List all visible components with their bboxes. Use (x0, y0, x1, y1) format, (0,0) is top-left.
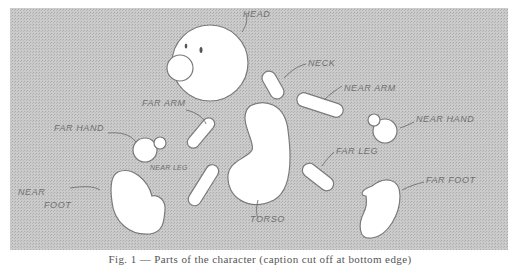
label-torso: Torso (250, 214, 285, 224)
label-near-arm: Near Arm (344, 83, 396, 93)
label-far-leg: Far Leg (336, 146, 378, 156)
eye-right (200, 47, 203, 53)
label-near-foot-line1: Near (18, 187, 45, 197)
label-neck: Neck (308, 58, 335, 68)
nose-shape (167, 55, 193, 81)
far-hand-thumb (154, 137, 166, 149)
near-hand-thumb (368, 114, 380, 126)
far-hand-shape (133, 138, 157, 162)
label-near-foot-line2: Foot (44, 200, 71, 210)
label-near-leg: Near Leg (150, 163, 188, 173)
label-far-foot: Far Foot (426, 175, 476, 185)
figure-caption: Fig. 1 — Parts of the character (caption… (0, 253, 520, 265)
eye-left (185, 44, 188, 49)
label-far-arm: Far Arm (142, 98, 186, 108)
label-head: Head (243, 9, 270, 19)
label-near-hand: Near Hand (416, 114, 474, 124)
label-far-hand: Far Hand (54, 123, 104, 133)
